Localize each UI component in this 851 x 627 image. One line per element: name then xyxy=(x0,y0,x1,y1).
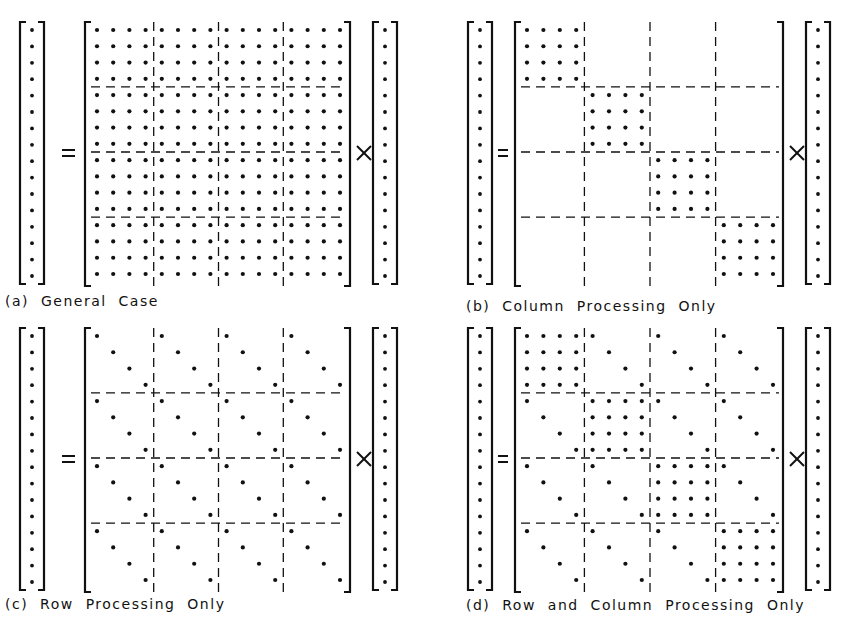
times-sign xyxy=(790,146,804,160)
equals-sign xyxy=(62,456,75,462)
matrix-vector-diagram xyxy=(0,0,851,627)
input-vector-c xyxy=(373,328,397,590)
matrix-bracket-d xyxy=(515,328,783,592)
input-vector-d xyxy=(806,328,830,590)
equals-sign xyxy=(62,150,75,156)
panel-c xyxy=(20,328,397,592)
result-vector-d xyxy=(468,328,492,590)
result-vector-c xyxy=(20,328,44,590)
panel-d xyxy=(468,328,830,592)
equals-sign xyxy=(498,150,508,156)
times-sign xyxy=(357,452,371,466)
panel-a xyxy=(20,22,397,286)
matrix-bracket-a xyxy=(85,22,350,286)
times-sign xyxy=(790,452,804,466)
equals-sign xyxy=(498,456,508,462)
matrix-bracket-b xyxy=(515,22,783,286)
result-vector-a xyxy=(20,22,44,284)
input-vector-b xyxy=(806,22,830,284)
panel-b xyxy=(468,22,830,286)
caption-b: (b) Column Processing Only xyxy=(466,298,717,314)
result-vector-b xyxy=(468,22,492,284)
matrix-bracket-c xyxy=(85,328,350,592)
caption-a: (a) General Case xyxy=(5,293,159,309)
caption-c: (c) Row Processing Only xyxy=(5,596,225,612)
input-vector-a xyxy=(373,22,397,284)
times-sign xyxy=(357,146,371,160)
caption-d: (d) Row and Column Processing Only xyxy=(466,597,805,613)
